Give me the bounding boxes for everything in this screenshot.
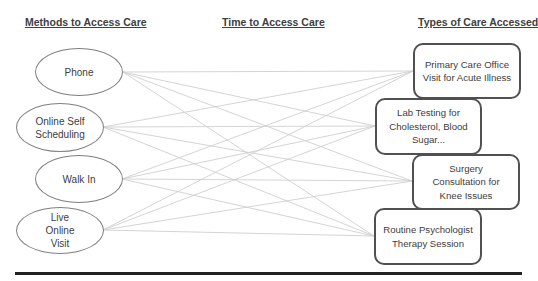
heading-types: Types of Care Accessed: [418, 16, 538, 28]
heading-time: Time to Access Care: [222, 16, 325, 28]
method-online-self-scheduling: Online Self Scheduling: [16, 103, 104, 152]
care-label: Routine Psychologist Therapy Session: [382, 223, 474, 250]
method-label: Online Self Scheduling: [31, 115, 89, 141]
care-surgery-consultation: Surgery Consultation for Knee Issues: [412, 154, 520, 210]
method-label: Walk In: [63, 173, 96, 186]
method-label: Live Online Visit: [35, 211, 85, 250]
care-label: Lab Testing for Cholesterol, Blood Sugar…: [381, 106, 476, 147]
method-phone: Phone: [35, 48, 123, 96]
method-live-online-visit: Live Online Visit: [16, 207, 104, 254]
method-label: Phone: [65, 66, 94, 79]
care-routine-psychologist: Routine Psychologist Therapy Session: [374, 208, 482, 265]
care-primary-care: Primary Care Office Visit for Acute Illn…: [413, 43, 521, 99]
care-label: Surgery Consultation for Knee Issues: [422, 162, 510, 203]
care-lab-testing: Lab Testing for Cholesterol, Blood Sugar…: [375, 98, 482, 155]
heading-methods: Methods to Access Care: [25, 16, 147, 28]
bottom-divider: [15, 272, 522, 275]
method-walk-in: Walk In: [35, 155, 123, 203]
care-label: Primary Care Office Visit for Acute Illn…: [419, 58, 515, 85]
